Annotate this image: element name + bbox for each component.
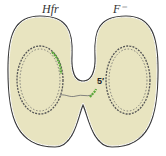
cell-cytoplasm [9, 17, 157, 146]
f-minus-label: F⁻ [113, 2, 126, 17]
hfr-label: Hfr [42, 2, 59, 17]
five-prime-label: 5′ [97, 76, 104, 86]
conjugation-diagram: Hfr F⁻ 5′ [0, 0, 166, 156]
cells-drawing [0, 0, 166, 156]
